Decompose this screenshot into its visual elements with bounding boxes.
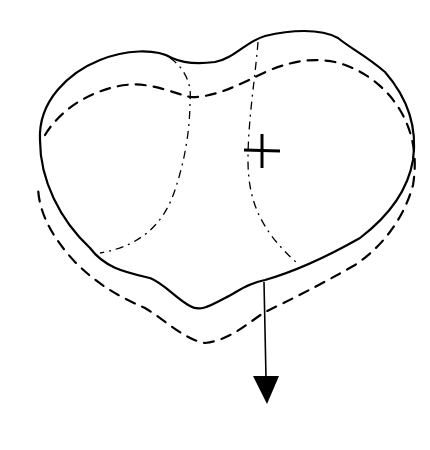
diagram-figure bbox=[0, 0, 430, 450]
right-dash-dot-region bbox=[248, 42, 297, 263]
load-arrow bbox=[253, 282, 279, 404]
outer-solid-outline bbox=[40, 31, 414, 308]
offset-dashed-outline bbox=[38, 60, 415, 343]
centroid-cross bbox=[244, 134, 280, 168]
left-dash-dot-region bbox=[100, 58, 190, 253]
